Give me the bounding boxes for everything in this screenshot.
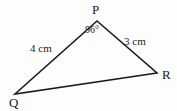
- triangle-diagram: P Q R 4 cm 3 cm 96°: [0, 0, 177, 111]
- angle-label-p: 96°: [85, 25, 99, 35]
- triangle-shape: [0, 0, 177, 111]
- side-label-pq: 4 cm: [30, 43, 52, 54]
- side-label-pr: 3 cm: [124, 36, 146, 47]
- vertex-label-r: R: [162, 68, 171, 81]
- vertex-label-q: Q: [9, 96, 18, 109]
- vertex-label-p: P: [92, 3, 99, 16]
